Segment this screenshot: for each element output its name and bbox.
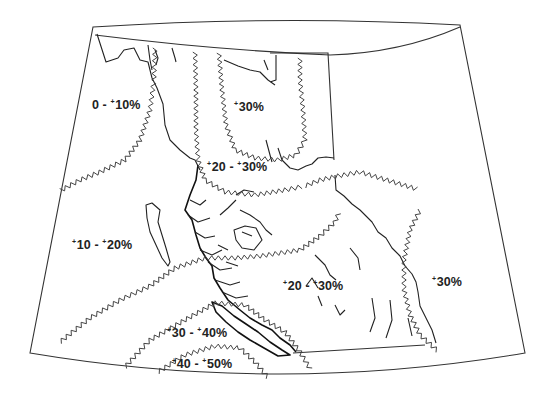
isoline-east-upper bbox=[306, 170, 418, 190]
interior-lake bbox=[234, 226, 262, 250]
zone-label-40-50: +40 - +50% bbox=[172, 357, 232, 371]
province-boundary-bottom bbox=[293, 345, 425, 353]
river-north bbox=[224, 55, 276, 85]
north-boundary-line bbox=[95, 27, 460, 55]
zone-label-20-30-north: +20 - +30% bbox=[207, 160, 267, 174]
map-frame bbox=[30, 20, 525, 374]
rockies-boundary bbox=[335, 175, 436, 343]
zone-label-30-north: +30% bbox=[234, 100, 264, 114]
map-canvas bbox=[0, 0, 552, 402]
zone-label-20-30-south: +20 - +30% bbox=[283, 279, 343, 293]
zone-label-0-10: 0 - +10% bbox=[92, 98, 141, 112]
zone-label-30-40: +30 - +40% bbox=[167, 326, 227, 340]
interior-river-3 bbox=[315, 248, 412, 338]
zone-label-30-east: +30% bbox=[432, 275, 462, 289]
river-central-north bbox=[266, 140, 334, 170]
isoline-0-10-boundary bbox=[60, 48, 157, 191]
isoline-north-west bbox=[193, 52, 302, 197]
zone-label-10-20: +10 - +20% bbox=[72, 238, 132, 252]
island-haida-gwaii bbox=[146, 203, 170, 266]
interior-river-1 bbox=[236, 190, 272, 236]
coast-inlet-ne bbox=[148, 45, 176, 70]
